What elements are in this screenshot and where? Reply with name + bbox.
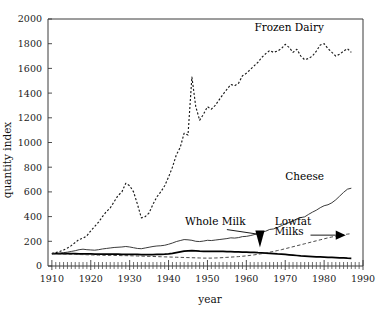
y-tick-label: 1600 [18,63,42,74]
whole-milk-arrow-shaft [227,230,260,235]
x-axis-tick-labels: 191019201930194019501960197019801990 [40,273,375,284]
y-tick-label: 2000 [18,13,42,24]
x-axis-title: year [197,293,222,305]
y-tick-label: 1800 [18,38,42,49]
y-tick-label: 200 [24,236,42,247]
x-tick-label: 1970 [273,273,297,284]
chart-canvas: 0200400600800100012001400160018002000 19… [0,0,379,310]
x-tick-label: 1960 [234,273,258,284]
annotation-label: Frozen Dairy [254,21,324,33]
y-tick-label: 1200 [18,112,42,123]
annotation-label: Cheese [285,170,324,182]
y-tick-label: 0 [36,260,42,271]
x-tick-label: 1930 [118,273,142,284]
x-tick-label: 1980 [312,273,336,284]
y-tick-label: 1000 [18,137,42,148]
y-tick-label: 800 [24,162,42,173]
y-tick-label: 1400 [18,88,42,99]
x-tick-label: 1910 [40,273,64,284]
y-axis-tick-labels: 0200400600800100012001400160018002000 [18,13,42,271]
x-tick-label: 1990 [351,273,375,284]
axis-ticks [48,19,363,270]
plot-frame [48,19,363,266]
y-tick-label: 600 [24,186,42,197]
x-tick-label: 1950 [195,273,219,284]
annotation-label: Whole Milk [185,215,246,227]
quantity-index-line-chart: 0200400600800100012001400160018002000 19… [0,0,379,310]
x-tick-label: 1920 [79,273,103,284]
whole-milk-arrow-head [255,230,264,247]
axis-frame [48,19,363,266]
x-tick-label: 1940 [156,273,180,284]
y-tick-label: 400 [24,211,42,222]
annotation-label: Milks [275,225,304,237]
series-line-whole-milk [52,251,351,259]
lowfat-arrow-head [336,231,346,240]
y-axis-title: quantity index [1,122,13,199]
